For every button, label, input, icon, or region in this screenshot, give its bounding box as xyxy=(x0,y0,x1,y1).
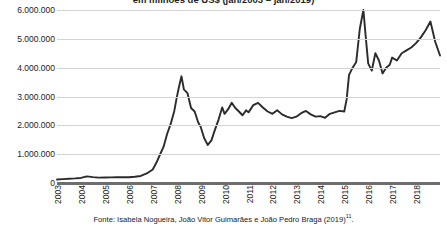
x-axis-tick-label: 2015 xyxy=(340,185,350,204)
x-axis-tick-label: 2010 xyxy=(221,185,231,204)
y-axis-tick-label: 5.000.000 xyxy=(17,34,55,44)
y-axis-tick-label: 2.000.000 xyxy=(17,120,55,130)
x-axis-tick-label: 2011 xyxy=(245,185,255,203)
x-axis-tick-label: 2009 xyxy=(197,185,207,204)
x-axis-tick-label: 2005 xyxy=(101,185,111,204)
plot-area xyxy=(57,10,440,183)
x-axis-tick-label: 2004 xyxy=(77,185,87,204)
y-axis-tick-label: 3.000.000 xyxy=(17,92,55,102)
gridline xyxy=(57,68,440,69)
y-axis-tick-label: 1.000.000 xyxy=(17,149,55,159)
source-caption-text: Fonte: Isabela Nogueira, João Vitor Guim… xyxy=(93,215,345,224)
gridline xyxy=(57,97,440,98)
x-axis-tick-label: 2007 xyxy=(149,185,159,204)
y-axis-tick-label: 6.000.000 xyxy=(17,5,55,15)
gridline xyxy=(57,154,440,155)
x-axis-tick-label: 2013 xyxy=(292,185,302,204)
gridline xyxy=(57,39,440,40)
x-axis-tick-label: 2014 xyxy=(316,185,326,204)
x-axis-tick-label: 2008 xyxy=(173,185,183,204)
x-axis-tick-label: 2017 xyxy=(388,185,398,204)
x-axis-tick-label: 2018 xyxy=(412,185,422,204)
source-caption: Fonte: Isabela Nogueira, João Vitor Guim… xyxy=(0,213,447,224)
chart-title: em milhões de US$ (jan/2003 – jan/2019) xyxy=(0,0,447,5)
chart-figure: em milhões de US$ (jan/2003 – jan/2019) … xyxy=(0,0,447,226)
x-axis-tick-label: 2016 xyxy=(364,185,374,204)
gridline xyxy=(57,10,440,11)
x-axis-tick-label: 2006 xyxy=(125,185,135,204)
x-axis-tick-label: 2003 xyxy=(53,185,63,204)
gridline xyxy=(57,125,440,126)
y-axis: 01.000.0002.000.0003.000.0004.000.0005.0… xyxy=(0,0,55,193)
x-axis-tick-label: 2012 xyxy=(268,185,278,204)
source-caption-period: . xyxy=(351,215,353,224)
y-axis-tick-label: 4.000.000 xyxy=(17,63,55,73)
